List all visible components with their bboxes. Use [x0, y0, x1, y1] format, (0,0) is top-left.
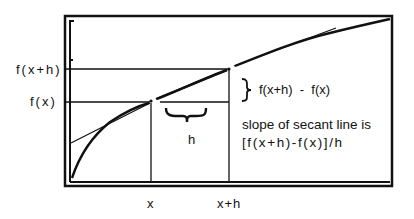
fx-axis-label: f(x)	[30, 95, 57, 108]
x-axis-label: x	[147, 197, 154, 210]
difference-label: f(x+h) - f(x)	[259, 83, 330, 96]
point-xh	[227, 67, 230, 70]
point-x	[149, 99, 152, 102]
h-brace	[166, 108, 206, 122]
slope-text-line1: slope of secant line is	[242, 118, 371, 132]
difference-brace	[242, 79, 251, 101]
secant-diagram	[0, 0, 414, 219]
h-label: h	[188, 133, 195, 146]
function-curve	[72, 19, 390, 178]
slope-text-line2: [f(x+h)-f(x)]/h	[242, 136, 344, 150]
xh-axis-label: x+h	[217, 197, 241, 210]
reference-lines	[65, 69, 229, 183]
fxh-axis-label: f(x+h)	[16, 63, 62, 76]
